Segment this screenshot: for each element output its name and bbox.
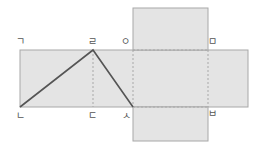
horizontal-strip [20, 50, 248, 107]
label-n: ㄴ [16, 111, 25, 121]
label-m: ㅁ [208, 37, 217, 47]
label-g: ㄱ [16, 37, 25, 47]
label-r: ㄹ [88, 37, 97, 47]
label-s: ㅅ [122, 111, 131, 121]
bottom-face [133, 107, 208, 141]
label-b: ㅂ [208, 109, 217, 119]
prism-net-diagram [0, 0, 262, 152]
label-d: ㄷ [88, 111, 97, 121]
top-face [133, 8, 208, 50]
label-o: ㅇ [121, 37, 130, 47]
